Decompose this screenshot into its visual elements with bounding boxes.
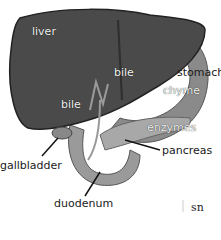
label-bile-upper: bile <box>114 67 134 79</box>
gallbladder-shape <box>52 127 72 139</box>
label-gallbladder: gallbladder <box>0 160 62 172</box>
label-pancreas: pancreas <box>162 145 212 157</box>
label-chyme: chyme <box>163 85 200 97</box>
label-bile-lower: bile <box>61 99 81 111</box>
corner-text: sn <box>191 201 204 214</box>
label-stomach: stomach <box>177 67 221 79</box>
label-enzymes: enzymes <box>147 122 196 134</box>
label-liver: liver <box>32 26 56 38</box>
label-duodenum: duodenum <box>54 198 113 210</box>
